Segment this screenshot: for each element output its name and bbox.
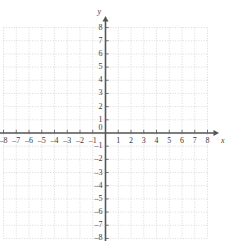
y-tick-label-neg8: –8 [95,234,103,241]
x-axis-label: x [221,137,225,145]
grid-and-axes-svg [0,0,225,241]
y-axis-label: y [97,8,101,16]
y-tick-label-neg3: –3 [95,169,103,177]
y-tick-label-neg2: –2 [95,155,103,163]
x-tick-label-neg7: –7 [12,137,20,145]
x-tick-label-neg2: –2 [76,137,84,145]
x-tick-label-8: 8 [206,137,210,145]
y-tick-label-5: 5 [99,63,103,71]
x-tick-label-3: 3 [142,137,146,145]
x-axis-arrowhead [214,130,220,136]
coordinate-plane-figure: –8–7–6–5–4–3–2–112345678 87654321–1–2–3–… [0,0,225,241]
y-tick-label-neg7: –7 [95,221,103,229]
y-tick-label-8: 8 [99,24,103,32]
y-tick-label-neg5: –5 [95,195,103,203]
x-tick-label-neg3: –3 [63,137,71,145]
y-axis-arrowhead [103,16,109,22]
origin-label: 0 [99,124,103,132]
x-tick-label-neg4: –4 [51,137,59,145]
x-tick-label-4: 4 [155,137,159,145]
y-tick-label-3: 3 [99,89,103,97]
y-tick-label-neg4: –4 [95,182,103,190]
x-tick-label-6: 6 [180,137,184,145]
y-tick-label-neg1: –1 [95,142,103,150]
x-tick-label-5: 5 [167,137,171,145]
x-tick-label-neg8: –8 [0,137,8,145]
y-tick-label-6: 6 [99,50,103,58]
y-tick-label-neg6: –6 [95,208,103,216]
x-tick-label-2: 2 [129,137,133,145]
y-tick-label-2: 2 [99,103,103,111]
x-tick-label-neg5: –5 [38,137,46,145]
x-tick-label-1: 1 [116,137,120,145]
x-tick-label-7: 7 [193,137,197,145]
y-tick-label-4: 4 [99,76,103,84]
y-tick-label-7: 7 [99,37,103,45]
x-tick-label-neg6: –6 [25,137,33,145]
